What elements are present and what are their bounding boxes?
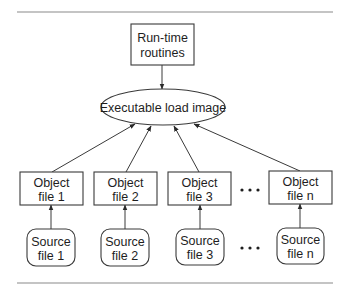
- executable-load-image-label: Executable load image: [100, 101, 227, 115]
- arrow-object-2-to-executable: [126, 126, 151, 172]
- source-2-label-line2: file 2: [112, 249, 138, 263]
- source-n-label-line2: file n: [287, 247, 313, 261]
- ellipsis-dot: [248, 246, 251, 249]
- ellipsis-dot: [248, 188, 251, 191]
- source-3-node: Sourcefile 3: [176, 229, 224, 265]
- source-1-label-line1: Source: [31, 235, 71, 249]
- runtime-routines-node: Run-time routines: [131, 24, 194, 65]
- source-files: Sourcefile 1Sourcefile 2Sourcefile 3Sour…: [27, 228, 324, 266]
- source-1-node: Sourcefile 1: [27, 229, 75, 266]
- source-2-node: Sourcefile 2: [101, 229, 149, 266]
- source-n-node: Sourcefile n: [277, 228, 324, 264]
- executable-load-image-node: Executable load image: [100, 89, 227, 125]
- object-2-label-line1: Object: [107, 176, 144, 190]
- linker-diagram: Run-time routines Executable load image …: [0, 0, 352, 291]
- ellipsis-dots: [240, 188, 259, 249]
- ellipsis-dot: [240, 246, 243, 249]
- object-ellipsis: [240, 188, 259, 191]
- runtime-routines-label-line1: Run-time: [137, 31, 188, 45]
- object-n-label-line1: Object: [282, 175, 319, 189]
- runtime-routines-label-line2: routines: [140, 46, 184, 60]
- source-2-label-line1: Source: [105, 235, 145, 249]
- object-1-label-line2: file 1: [38, 190, 64, 204]
- object-2-node: Objectfile 2: [94, 172, 157, 205]
- arrow-object-3-to-executable: [174, 126, 199, 172]
- object-files: Objectfile 1Objectfile 2Objectfile 3Obje…: [20, 171, 332, 205]
- object-2-label-line2: file 2: [112, 190, 138, 204]
- source-3-label-line2: file 3: [187, 248, 213, 262]
- object-n-node: Objectfile n: [269, 171, 332, 204]
- arrow-object-n-to-executable: [194, 124, 300, 171]
- object-3-label-line2: file 3: [186, 190, 212, 204]
- object-3-node: Objectfile 3: [168, 172, 231, 205]
- object-n-label-line2: file n: [287, 189, 313, 203]
- source-ellipsis: [240, 246, 259, 249]
- object-1-node: Objectfile 1: [20, 172, 83, 205]
- ellipsis-dot: [240, 188, 243, 191]
- source-1-label-line2: file 1: [38, 249, 64, 263]
- source-n-label-line1: Source: [281, 233, 321, 247]
- ellipsis-dot: [256, 246, 259, 249]
- source-3-label-line1: Source: [180, 234, 220, 248]
- object-1-label-line1: Object: [33, 176, 70, 190]
- ellipsis-dot: [256, 188, 259, 191]
- arrow-object-1-to-executable: [52, 124, 135, 172]
- object-3-label-line1: Object: [181, 176, 218, 190]
- nodes: Run-time routines Executable load image …: [20, 24, 332, 266]
